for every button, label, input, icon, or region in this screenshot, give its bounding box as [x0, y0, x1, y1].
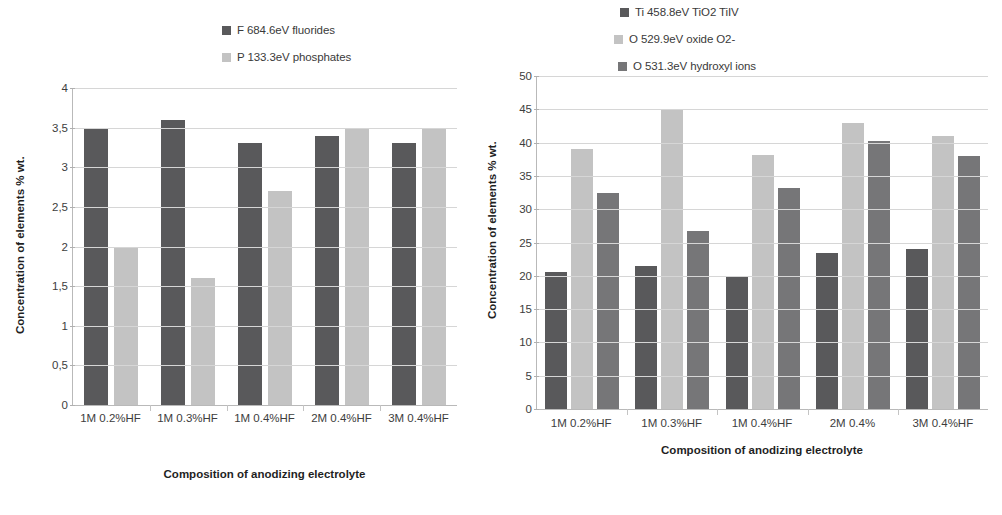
- y-tick-label: 10: [519, 336, 532, 348]
- legend-item: P 133.3eV phosphates: [222, 51, 351, 63]
- legend-left: F 684.6eV fluorides P 133.3eV phosphates: [222, 24, 351, 63]
- legend-label-fluorides: F 684.6eV fluorides: [237, 24, 335, 36]
- y-tickmark: [534, 376, 539, 377]
- gridline: [73, 128, 457, 129]
- bar: [906, 249, 928, 409]
- y-tickmark: [534, 143, 539, 144]
- y-tick-label: 25: [519, 237, 532, 249]
- y-tickmark: [534, 342, 539, 343]
- legend-label-hydroxyl: O 531.3eV hydroxyl ions: [633, 60, 756, 72]
- gridline: [73, 88, 457, 89]
- x-tickmark: [150, 405, 151, 411]
- x-axis-title-right: Composition of anodizing electrolyte: [536, 444, 988, 456]
- legend-swatch-oxide: [614, 35, 623, 44]
- gridline: [73, 167, 457, 168]
- y-tick-label: 35: [519, 170, 532, 182]
- plot-area-left: [72, 88, 457, 406]
- y-tick-label: 40: [519, 137, 532, 149]
- gridline: [73, 286, 457, 287]
- gridline: [537, 342, 988, 343]
- y-tick-label: 2,5: [52, 201, 68, 213]
- plot-area-right: [536, 76, 988, 410]
- x-tickmark: [717, 409, 718, 415]
- y-tick-label: 20: [519, 270, 532, 282]
- y-axis-ticks-right: 05101520253035404550: [502, 76, 532, 410]
- gridline: [73, 326, 457, 327]
- x-tickmark: [898, 409, 899, 415]
- bar: [191, 278, 215, 405]
- y-tickmark: [70, 207, 75, 208]
- y-tickmark: [70, 167, 75, 168]
- gridline: [537, 109, 988, 110]
- y-tickmark: [70, 247, 75, 248]
- legend-swatch-fluorides: [222, 26, 231, 35]
- bar: [268, 191, 292, 405]
- x-tickmark: [303, 405, 304, 411]
- y-axis-ticks-left: 00,511,522,533,54: [34, 88, 68, 406]
- y-tick-label: 4: [62, 82, 68, 94]
- legend-item: O 529.9eV oxide O2-: [614, 33, 756, 45]
- gridline: [537, 209, 988, 210]
- y-tickmark: [70, 128, 75, 129]
- y-tick-label: 15: [519, 303, 532, 315]
- legend-label-ti: Ti 458.8eV TiO2 TiIV: [635, 6, 739, 18]
- legend-item: F 684.6eV fluorides: [222, 24, 351, 36]
- bar: [84, 128, 108, 405]
- y-tick-label: 50: [519, 70, 532, 82]
- x-axis-ticks-left: 1M 0.2%HF1M 0.3%HF1M 0.4%HF2M 0.4%HF3M 0…: [72, 412, 457, 424]
- y-tickmark: [534, 209, 539, 210]
- y-tick-label: 3: [62, 161, 68, 173]
- x-tick-label: 1M 0.2%HF: [536, 417, 626, 429]
- gridline: [537, 176, 988, 177]
- chart-panel-right: Ti 458.8eV TiO2 TiIV O 529.9eV oxide O2-…: [480, 0, 1002, 515]
- y-tick-label: 1: [62, 320, 68, 332]
- legend-swatch-hydroxyl: [618, 62, 627, 71]
- legend-item: Ti 458.8eV TiO2 TiIV: [620, 6, 756, 18]
- y-axis-title-left: Concentration of elements % wt.: [14, 120, 26, 370]
- bar: [345, 128, 369, 405]
- y-tick-label: 30: [519, 203, 532, 215]
- bar: [868, 141, 890, 409]
- x-tickmark: [227, 405, 228, 411]
- y-tick-label: 5: [526, 370, 532, 382]
- bar: [687, 231, 709, 409]
- legend-item: O 531.3eV hydroxyl ions: [618, 60, 756, 72]
- y-tick-label: 0: [526, 403, 532, 415]
- x-tick-label: 2M 0.4%HF: [303, 412, 380, 424]
- gridline: [537, 76, 988, 77]
- y-tickmark: [70, 405, 75, 406]
- y-tick-label: 2: [62, 241, 68, 253]
- y-tick-label: 1,5: [52, 280, 68, 292]
- legend-swatch-ti: [620, 8, 629, 17]
- y-tickmark: [534, 243, 539, 244]
- y-tick-label: 0,5: [52, 359, 68, 371]
- y-tick-label: 0: [62, 399, 68, 411]
- y-tickmark: [534, 276, 539, 277]
- x-tick-label: 1M 0.4%HF: [226, 412, 303, 424]
- legend-label-oxide: O 529.9eV oxide O2-: [629, 33, 735, 45]
- y-tickmark: [534, 176, 539, 177]
- y-tickmark: [70, 326, 75, 327]
- legend-label-phosphates: P 133.3eV phosphates: [237, 51, 351, 63]
- x-tick-label: 3M 0.4%HF: [898, 417, 988, 429]
- y-tickmark: [534, 309, 539, 310]
- x-tickmark: [380, 405, 381, 411]
- y-tick-label: 3,5: [52, 122, 68, 134]
- bar: [932, 136, 954, 409]
- legend-swatch-phosphates: [222, 53, 231, 62]
- bar: [161, 120, 185, 405]
- x-tick-label: 1M 0.3%HF: [626, 417, 716, 429]
- chart-panel-left: F 684.6eV fluorides P 133.3eV phosphates…: [0, 0, 480, 515]
- y-tickmark: [70, 88, 75, 89]
- x-tickmark: [808, 409, 809, 415]
- bar: [842, 123, 864, 409]
- gridline: [73, 207, 457, 208]
- gridline: [537, 143, 988, 144]
- y-tickmark: [534, 109, 539, 110]
- y-tick-label: 45: [519, 103, 532, 115]
- x-tick-label: 1M 0.3%HF: [149, 412, 226, 424]
- gridline: [537, 309, 988, 310]
- gridline: [73, 365, 457, 366]
- y-tickmark: [534, 76, 539, 77]
- gridline: [537, 243, 988, 244]
